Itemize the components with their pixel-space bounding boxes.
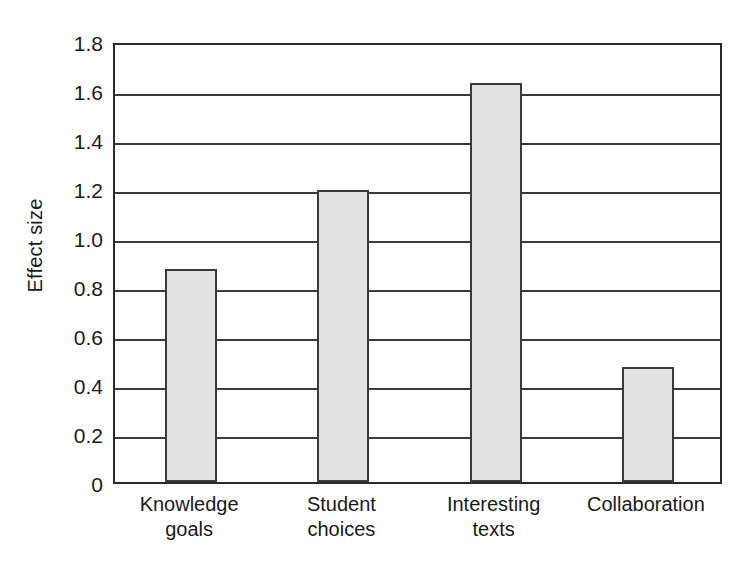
y-axis-tick-label: 0 bbox=[91, 474, 103, 495]
y-axis-tick-label: 0.4 bbox=[74, 376, 103, 397]
y-axis-tick-label: 1.0 bbox=[74, 229, 103, 250]
x-axis-category-labels: Knowledge goalsStudent choicesInterestin… bbox=[113, 492, 722, 562]
bar-chart-figure: Effect size 00.20.40.60.81.01.21.41.61.8… bbox=[0, 0, 750, 570]
x-axis-category-label: Knowledge goals bbox=[140, 492, 239, 542]
x-axis-category-label: Interesting texts bbox=[447, 492, 540, 542]
plot-area bbox=[113, 43, 722, 484]
y-axis-tick-labels: 00.20.40.60.81.01.21.41.61.8 bbox=[0, 0, 113, 570]
y-axis-tick-label: 0.2 bbox=[74, 425, 103, 446]
x-axis-category-label: Student choices bbox=[307, 492, 376, 542]
y-axis-tick-label: 0.6 bbox=[74, 327, 103, 348]
bar bbox=[165, 269, 217, 482]
bar bbox=[317, 190, 369, 482]
bar bbox=[470, 83, 522, 482]
y-axis-tick-label: 0.8 bbox=[74, 278, 103, 299]
x-axis-category-label: Collaboration bbox=[587, 492, 705, 517]
y-axis-tick-label: 1.8 bbox=[74, 33, 103, 54]
bar bbox=[622, 367, 674, 482]
y-axis-tick-label: 1.4 bbox=[74, 131, 103, 152]
bar-series bbox=[115, 45, 720, 482]
y-axis-tick-label: 1.2 bbox=[74, 180, 103, 201]
y-axis-tick-label: 1.6 bbox=[74, 82, 103, 103]
